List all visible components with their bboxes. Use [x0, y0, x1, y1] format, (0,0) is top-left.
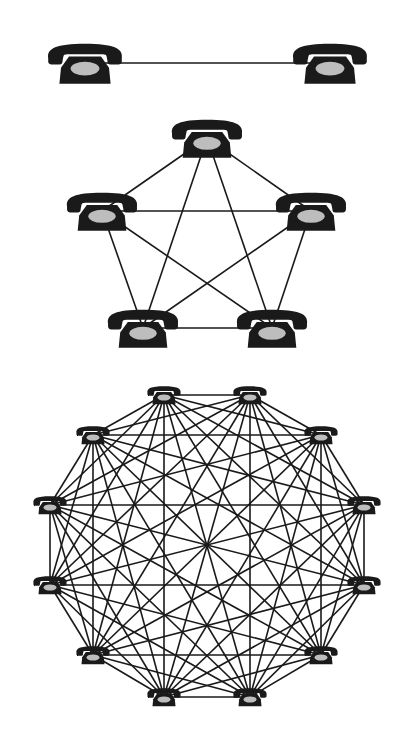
- connection-line: [143, 138, 207, 328]
- network-5-edges: [102, 138, 311, 328]
- connection-line: [93, 435, 364, 585]
- telephone-icon: [233, 688, 266, 706]
- telephone-nodes: [33, 44, 380, 707]
- telephone-icon: [276, 193, 346, 231]
- connection-lines: [50, 63, 364, 697]
- network-2-phones: [48, 44, 367, 84]
- connection-line: [50, 435, 321, 585]
- connection-line: [50, 505, 321, 655]
- telephone-icon: [108, 310, 178, 348]
- telephone-icon: [48, 44, 122, 84]
- telephone-icon: [172, 120, 242, 158]
- telephone-icon: [67, 193, 137, 231]
- telephone-icon: [293, 44, 367, 84]
- connection-line: [207, 138, 272, 328]
- telephone-icon: [147, 688, 180, 706]
- telephone-network-diagram: [0, 0, 412, 746]
- telephone-icon: [237, 310, 307, 348]
